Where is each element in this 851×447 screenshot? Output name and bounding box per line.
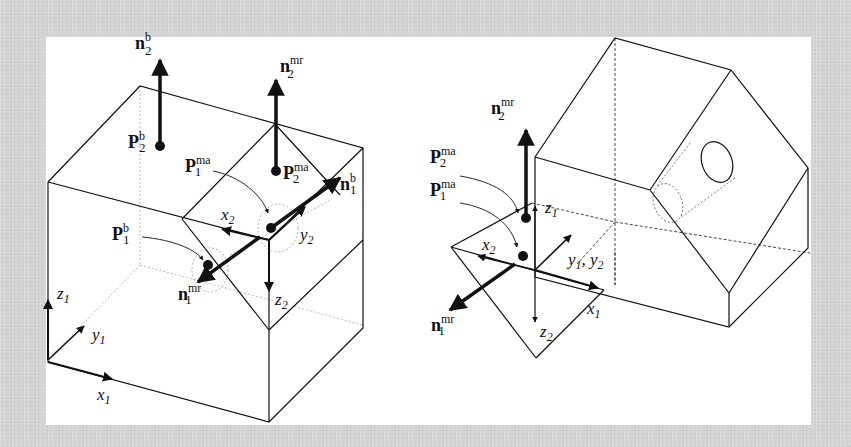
wedge-part xyxy=(451,203,604,358)
svg-text:z1: z1 xyxy=(544,198,558,220)
P2ma-point xyxy=(271,166,281,176)
diagram-canvas: nb2 nmr2 Pb2 Pma1 Pma2 nb1 Pb1 nmr1 x2 y… xyxy=(0,0,851,447)
svg-text:x1: x1 xyxy=(96,385,111,407)
P2b-point xyxy=(155,141,165,151)
svg-text:y1, y2: y1, y2 xyxy=(566,250,604,272)
n1b-arrow xyxy=(271,178,340,228)
svg-text:nb1: nb1 xyxy=(340,171,357,197)
x1-axis xyxy=(48,362,112,379)
svg-text:x2: x2 xyxy=(481,235,496,257)
n1mr-arrow xyxy=(198,237,260,282)
svg-text:z1: z1 xyxy=(56,284,70,306)
svg-text:Pb2: Pb2 xyxy=(128,129,146,155)
svg-text:x2: x2 xyxy=(220,205,235,227)
P1ma-point xyxy=(518,251,528,261)
svg-text:x1: x1 xyxy=(586,299,601,321)
svg-text:z2: z2 xyxy=(539,322,553,344)
y1-axis xyxy=(48,326,84,360)
svg-text:Pma2: Pma2 xyxy=(430,144,456,170)
svg-text:nb2: nb2 xyxy=(135,30,152,58)
svg-text:Pb1: Pb1 xyxy=(112,221,130,247)
svg-text:nmr2: nmr2 xyxy=(280,53,303,81)
svg-text:y1: y1 xyxy=(90,325,106,347)
svg-text:Pma1: Pma1 xyxy=(185,153,211,179)
n1mr-arrow xyxy=(450,264,515,310)
x2-axis xyxy=(222,229,269,240)
hex-body xyxy=(535,38,808,327)
P1b-point xyxy=(203,260,213,270)
svg-text:Pma1: Pma1 xyxy=(430,177,456,203)
y1y2-axis xyxy=(535,235,571,270)
svg-text:z2: z2 xyxy=(274,290,288,312)
left-labels: nb2 nmr2 Pb2 Pma1 Pma2 nb1 Pb1 nmr1 x2 y… xyxy=(56,30,357,407)
base-box xyxy=(48,86,363,422)
svg-text:nmr1: nmr1 xyxy=(431,312,454,338)
P2ma-point xyxy=(521,213,531,223)
left-diagram xyxy=(48,60,363,422)
right-diagram xyxy=(450,38,810,358)
svg-text:Pma2: Pma2 xyxy=(283,160,309,186)
hole xyxy=(696,137,739,187)
P1ma-point xyxy=(266,223,276,233)
svg-text:nmr2: nmr2 xyxy=(491,95,514,123)
svg-text:nmr1: nmr1 xyxy=(178,281,201,307)
svg-text:y2: y2 xyxy=(298,225,314,247)
